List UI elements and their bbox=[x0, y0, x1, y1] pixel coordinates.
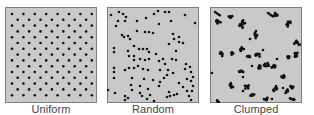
organism-dot bbox=[28, 88, 31, 91]
organism-dot bbox=[39, 19, 42, 22]
organism-dot bbox=[56, 36, 59, 39]
organism-dot bbox=[185, 63, 188, 66]
organism-dot bbox=[282, 87, 285, 90]
organism-dot bbox=[251, 94, 254, 97]
organism-dot bbox=[91, 48, 94, 51]
organism-dot bbox=[294, 54, 297, 57]
organism-dot bbox=[143, 78, 146, 81]
organism-dot bbox=[73, 77, 76, 80]
organism-dot bbox=[157, 10, 160, 13]
organism-dot bbox=[168, 43, 171, 46]
organism-dot bbox=[11, 71, 14, 74]
organism-dot bbox=[230, 51, 233, 54]
organism-dot bbox=[11, 24, 14, 27]
organism-dot bbox=[34, 36, 37, 39]
organism-dot bbox=[113, 67, 116, 70]
organism-dot bbox=[11, 13, 14, 16]
organism-dot bbox=[85, 77, 88, 80]
organism-dot bbox=[11, 59, 14, 62]
organism-dot bbox=[286, 25, 289, 28]
organism-dot bbox=[255, 30, 258, 33]
organism-dot bbox=[172, 72, 175, 75]
organism-dot bbox=[79, 24, 82, 27]
organism-dot bbox=[34, 71, 37, 74]
organism-dot bbox=[28, 30, 31, 33]
organism-dot bbox=[229, 82, 232, 85]
organism-dot bbox=[239, 23, 242, 26]
organism-dot bbox=[147, 69, 150, 72]
organism-dot bbox=[216, 22, 219, 25]
organism-dot bbox=[133, 55, 136, 58]
organism-dot bbox=[85, 19, 88, 22]
organism-dot bbox=[211, 72, 214, 75]
organism-dot bbox=[145, 17, 148, 20]
organism-dot bbox=[229, 16, 232, 19]
organism-dot bbox=[184, 14, 187, 17]
organism-dot bbox=[293, 98, 296, 101]
organism-dot bbox=[85, 42, 88, 45]
organism-dot bbox=[124, 99, 127, 102]
organism-dot bbox=[173, 38, 176, 41]
organism-dot bbox=[241, 26, 244, 29]
organism-dot bbox=[159, 81, 162, 84]
organism-dot bbox=[176, 93, 179, 96]
organism-dot bbox=[292, 86, 295, 89]
organism-dot bbox=[186, 90, 189, 93]
organism-dot bbox=[184, 68, 187, 71]
organism-dot bbox=[254, 37, 257, 40]
organism-dot bbox=[267, 64, 270, 67]
organism-dot bbox=[130, 84, 133, 87]
organism-dot bbox=[168, 91, 171, 94]
organism-dot bbox=[139, 92, 142, 95]
organism-dot bbox=[175, 59, 178, 62]
organism-dot bbox=[68, 71, 71, 74]
organism-dot bbox=[68, 48, 71, 51]
organism-dot bbox=[128, 55, 131, 58]
organism-dot bbox=[34, 13, 37, 16]
organism-dot bbox=[258, 64, 261, 67]
organism-dot bbox=[56, 94, 59, 97]
organism-dot bbox=[178, 36, 181, 39]
organism-dot bbox=[39, 65, 42, 68]
organism-dot bbox=[113, 51, 116, 54]
label-random: Random bbox=[107, 103, 199, 115]
organism-dot bbox=[164, 63, 167, 66]
organism-dot bbox=[121, 34, 124, 37]
organism-dot bbox=[158, 85, 161, 88]
organism-dot bbox=[191, 90, 194, 93]
organism-dot bbox=[259, 67, 262, 70]
organism-dot bbox=[16, 42, 19, 45]
organism-dot bbox=[270, 66, 273, 69]
organism-dot bbox=[62, 88, 65, 91]
organism-dot bbox=[113, 47, 116, 50]
organism-dot bbox=[275, 87, 278, 90]
organism-dot bbox=[22, 94, 25, 97]
organism-dot bbox=[124, 69, 127, 72]
organism-dot bbox=[192, 76, 195, 79]
organism-dot bbox=[28, 77, 31, 80]
organism-dot bbox=[34, 94, 37, 97]
organism-dot bbox=[62, 53, 65, 56]
organism-dot bbox=[16, 19, 19, 22]
organism-dot bbox=[28, 42, 31, 45]
organism-dot bbox=[146, 48, 149, 51]
organism-dot bbox=[79, 94, 82, 97]
organism-dot bbox=[166, 74, 169, 77]
organism-dot bbox=[62, 19, 65, 22]
organism-dot bbox=[147, 88, 150, 91]
organism-dot bbox=[276, 58, 279, 61]
organism-dot bbox=[159, 69, 162, 72]
panel-uniform bbox=[5, 7, 97, 103]
organism-dot bbox=[230, 86, 233, 89]
organism-dot bbox=[296, 51, 299, 54]
organism-dot bbox=[253, 33, 256, 36]
organism-dot bbox=[162, 58, 165, 61]
organism-dot bbox=[79, 82, 82, 85]
organism-dot bbox=[123, 36, 126, 39]
organism-dot bbox=[11, 48, 14, 51]
organism-dot bbox=[276, 13, 279, 16]
organism-dot bbox=[68, 13, 71, 16]
organism-dot bbox=[79, 71, 82, 74]
organism-dot bbox=[166, 96, 169, 99]
organism-dot bbox=[22, 82, 25, 85]
